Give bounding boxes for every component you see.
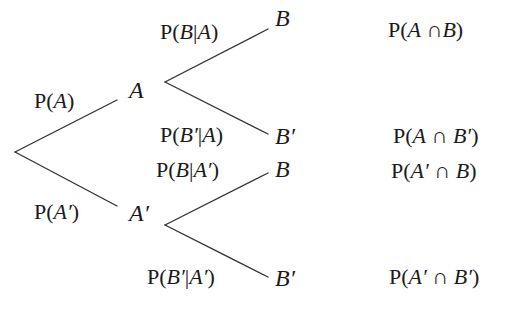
label-suffix: ) xyxy=(67,88,74,113)
intersection-symbol: ∩ xyxy=(421,17,442,42)
label-var: A xyxy=(413,123,426,148)
label-suffix: ) xyxy=(72,199,79,224)
label-var: A′ xyxy=(189,264,207,289)
label-var: A xyxy=(408,17,421,42)
label-var: B′ xyxy=(453,123,471,148)
label-prefix: P( xyxy=(156,157,176,182)
label-prefix: P( xyxy=(34,88,54,113)
label-var: A xyxy=(202,122,215,147)
label-prefix: P( xyxy=(34,199,54,224)
label-suffix: ) xyxy=(212,157,219,182)
label-p-b-given-a: P(B|A) xyxy=(160,21,218,43)
label-p-b-prime-given-a: P(B′|A) xyxy=(160,124,223,146)
label-prefix: P( xyxy=(147,264,167,289)
label-var: B xyxy=(180,19,193,44)
outcome-a-and-b-prime: P(A ∩ B′) xyxy=(393,125,479,147)
branch-root-to-a-prime xyxy=(15,152,117,206)
label-var: B′ xyxy=(454,264,472,289)
label-var: B xyxy=(456,158,469,183)
node-a-prime: A′ xyxy=(129,201,149,225)
node-b-under-a-prime: B xyxy=(275,157,290,181)
label-suffix: ) xyxy=(456,17,463,42)
label-suffix: ) xyxy=(211,19,218,44)
outcome-a-and-b: P(A ∩B) xyxy=(388,19,463,41)
label-p-a: P(A) xyxy=(34,90,74,112)
label-var: A′ xyxy=(411,158,429,183)
label-suffix: ) xyxy=(472,264,479,289)
label-var: B′ xyxy=(167,264,185,289)
label-var: A′ xyxy=(193,157,211,182)
label-prefix: P( xyxy=(160,19,180,44)
label-var: A xyxy=(54,88,67,113)
label-var: B xyxy=(176,157,189,182)
label-var: B xyxy=(442,17,455,42)
label-prefix: P( xyxy=(160,122,180,147)
node-b-prime-under-a: B′ xyxy=(275,124,295,148)
node-b-prime-under-a-prime: B′ xyxy=(275,266,295,290)
intersection-symbol: ∩ xyxy=(427,264,454,289)
intersection-symbol: ∩ xyxy=(429,158,456,183)
label-p-b-given-a-prime: P(B|A′) xyxy=(156,159,219,181)
label-var: B′ xyxy=(180,122,198,147)
label-prefix: P( xyxy=(389,264,409,289)
label-suffix: ) xyxy=(469,158,476,183)
node-a: A xyxy=(129,78,144,102)
label-prefix: P( xyxy=(388,17,408,42)
outcome-a-prime-and-b: P(A′ ∩ B) xyxy=(391,160,477,182)
node-b-under-a: B xyxy=(275,6,290,30)
label-suffix: ) xyxy=(471,123,478,148)
label-prefix: P( xyxy=(393,123,413,148)
label-var: A′ xyxy=(409,264,427,289)
label-suffix: ) xyxy=(216,122,223,147)
label-var: A′ xyxy=(54,199,72,224)
label-suffix: ) xyxy=(208,264,215,289)
label-var: A xyxy=(197,19,210,44)
label-p-a-prime: P(A′) xyxy=(34,201,79,223)
label-prefix: P( xyxy=(391,158,411,183)
intersection-symbol: ∩ xyxy=(426,123,453,148)
outcome-a-prime-and-b-prime: P(A′ ∩ B′) xyxy=(389,266,479,288)
label-p-b-prime-given-a-prime: P(B′|A′) xyxy=(147,266,215,288)
